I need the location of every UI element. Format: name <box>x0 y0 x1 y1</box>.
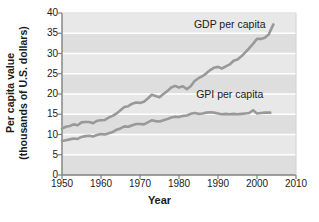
x-tick-label: 1960 <box>90 178 112 189</box>
plot-bg-band <box>62 33 296 53</box>
x-tick-label: 1950 <box>51 178 73 189</box>
x-axis-tick-labels: 1950196019701980199020002010 <box>0 178 319 194</box>
series-label-gpi: GPI per capita <box>196 88 263 100</box>
x-tick-label: 1990 <box>207 178 229 189</box>
x-tick-label: 2000 <box>246 178 268 189</box>
series-label-gdp: GDP per capita <box>194 18 266 30</box>
chart-figure: Per capita value (thousands of U.S. doll… <box>0 0 319 222</box>
x-axis-title: Year <box>0 194 319 206</box>
x-tick-label: 1970 <box>129 178 151 189</box>
x-tick-label: 1980 <box>168 178 190 189</box>
x-tick-label: 2010 <box>285 178 307 189</box>
plot-bg-band <box>62 155 296 175</box>
